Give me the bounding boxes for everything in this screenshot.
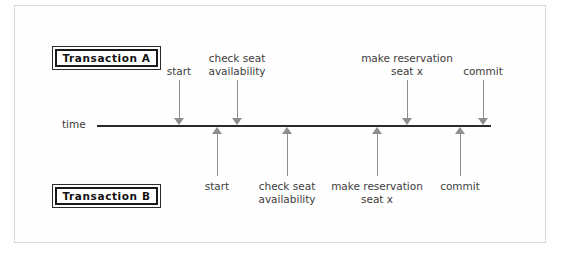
txn-a-arrow-0	[174, 80, 185, 125]
txn-b-event-label-1-line-0: check seat	[258, 180, 315, 193]
txn-a-arrow-shaft-0	[179, 80, 180, 119]
txn-a-arrow-head-2	[402, 118, 412, 125]
txn-a-arrow-head-0	[174, 118, 184, 125]
txn-a-event-label-1-line-0: check seat	[208, 52, 265, 65]
txn-b-event-label-2-line-1: seat x	[331, 193, 423, 206]
txn-b-arrow-0	[212, 127, 223, 176]
txn-a-event-label-3: commit	[463, 65, 503, 78]
transaction-b-label-box: Transaction B	[52, 184, 161, 208]
txn-b-event-label-2-line-0: make reservation	[331, 180, 423, 193]
txn-b-arrow-shaft-2	[377, 133, 378, 176]
transaction-b-label: Transaction B	[62, 190, 150, 202]
txn-b-arrow-shaft-0	[217, 133, 218, 176]
txn-a-arrow-shaft-1	[237, 80, 238, 119]
txn-b-event-label-3-line-0: commit	[440, 180, 480, 193]
txn-a-event-label-2: make reservationseat x	[361, 52, 453, 77]
transaction-b-label-box-inner: Transaction B	[55, 187, 158, 205]
txn-b-event-label-1-line-1: availability	[258, 193, 315, 206]
txn-a-event-label-0-line-0: start	[167, 65, 191, 78]
txn-a-event-label-0: start	[167, 65, 191, 78]
txn-a-arrow-shaft-3	[483, 80, 484, 119]
txn-a-event-label-2-line-1: seat x	[361, 65, 453, 78]
transaction-a-label-box: Transaction A	[52, 46, 161, 70]
txn-a-arrow-head-3	[478, 118, 488, 125]
txn-a-arrow-2	[402, 80, 413, 125]
txn-b-event-label-0: start	[205, 180, 229, 193]
txn-b-arrow-3	[455, 127, 466, 176]
txn-b-arrow-1	[282, 127, 293, 176]
txn-b-arrow-shaft-1	[287, 133, 288, 176]
txn-a-arrow-3	[478, 80, 489, 125]
txn-b-event-label-0-line-0: start	[205, 180, 229, 193]
txn-a-event-label-2-line-0: make reservation	[361, 52, 453, 65]
txn-a-arrow-shaft-2	[407, 80, 408, 119]
txn-b-event-label-1: check seatavailability	[258, 180, 315, 205]
txn-a-arrow-head-1	[232, 118, 242, 125]
time-axis-label: time	[62, 118, 86, 130]
txn-a-event-label-1: check seatavailability	[208, 52, 265, 77]
transaction-a-label-box-inner: Transaction A	[55, 49, 158, 67]
txn-b-event-label-2: make reservationseat x	[331, 180, 423, 205]
txn-a-event-label-3-line-0: commit	[463, 65, 503, 78]
txn-b-arrow-shaft-3	[460, 133, 461, 176]
txn-b-arrow-2	[372, 127, 383, 176]
time-axis-line	[97, 125, 491, 127]
txn-a-arrow-1	[232, 80, 243, 125]
transaction-timeline-figure: Transaction A Transaction B time startch…	[0, 0, 561, 261]
txn-a-event-label-1-line-1: availability	[208, 65, 265, 78]
txn-b-event-label-3: commit	[440, 180, 480, 193]
transaction-a-label: Transaction A	[62, 52, 150, 64]
